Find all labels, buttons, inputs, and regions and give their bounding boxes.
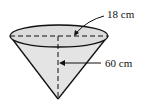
height-label: 60 cm: [105, 57, 133, 69]
cone-figure: [10, 16, 108, 99]
cone-diagram: 18 cm 60 cm: [0, 0, 151, 108]
radius-label: 18 cm: [107, 8, 135, 20]
